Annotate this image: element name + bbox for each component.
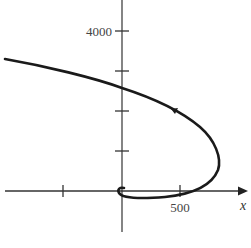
x-axis-label: x bbox=[239, 198, 247, 213]
x-tick-label-500: 500 bbox=[170, 200, 190, 215]
y-tick-label-4000: 4000 bbox=[86, 24, 112, 39]
trajectory-curve bbox=[5, 59, 219, 198]
chart: 4000 500 x bbox=[0, 0, 251, 248]
x-axis-arrow-icon bbox=[238, 187, 248, 196]
